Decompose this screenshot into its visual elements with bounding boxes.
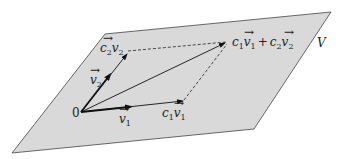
v1-vector-hat: → bbox=[119, 102, 129, 116]
c1v1-vector-hat: → bbox=[174, 96, 184, 110]
linear-combination-diagram: 0 c2v2 → v2 → v1 → c1v1 → c1v1+c2v2 → → … bbox=[0, 0, 341, 159]
sum-v1-vector-hat: → bbox=[244, 25, 254, 39]
origin-label: 0 bbox=[72, 106, 80, 120]
v2-vector-hat: → bbox=[90, 63, 100, 77]
c2v2-vector-hat: → bbox=[103, 31, 113, 45]
plane-label: V bbox=[317, 36, 327, 50]
sum-v2-vector-hat: → bbox=[284, 25, 294, 39]
